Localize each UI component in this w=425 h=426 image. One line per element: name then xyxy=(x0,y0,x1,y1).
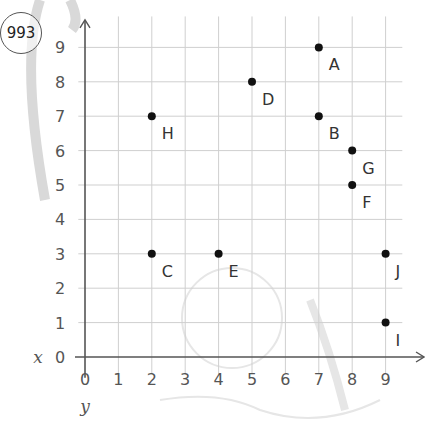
axes xyxy=(75,20,424,378)
point-label: A xyxy=(329,55,340,74)
background-decoration xyxy=(31,0,380,418)
point-marker xyxy=(148,250,156,258)
point-marker xyxy=(248,78,256,86)
y-tick-label: 0 xyxy=(55,348,65,367)
point-label: I xyxy=(396,331,401,350)
point-label: D xyxy=(262,90,274,109)
data-point-j: J xyxy=(382,250,401,281)
decorative-swoosh xyxy=(70,0,76,30)
y-tick-label: 9 xyxy=(55,38,65,57)
point-label: C xyxy=(162,262,173,281)
point-label: B xyxy=(329,124,340,143)
y-axis-label: y xyxy=(79,396,90,416)
exercise-number: 993 xyxy=(7,24,36,42)
point-label: E xyxy=(229,262,239,281)
decorative-sun-icon xyxy=(182,268,282,368)
x-tick-label: 4 xyxy=(214,370,224,389)
point-label: G xyxy=(362,159,374,178)
point-marker xyxy=(148,112,156,120)
x-tick-label: 2 xyxy=(147,370,157,389)
point-label: J xyxy=(395,262,401,281)
grid-lines xyxy=(78,16,402,374)
point-marker xyxy=(348,181,356,189)
x-tick-label: 1 xyxy=(113,370,123,389)
point-label: F xyxy=(362,193,371,212)
point-marker xyxy=(315,43,323,51)
x-tick-label: 0 xyxy=(80,370,90,389)
data-point-i: I xyxy=(382,319,401,350)
coordinate-plane: 01234567890123456789xy ABCDEFGHIJ xyxy=(0,0,425,426)
y-tick-label: 3 xyxy=(55,245,65,264)
point-marker xyxy=(382,319,390,327)
y-tick-label: 6 xyxy=(55,142,65,161)
data-point-f: F xyxy=(348,181,371,212)
point-marker xyxy=(315,112,323,120)
tick-labels: 01234567890123456789xy xyxy=(33,38,390,416)
y-tick-label: 5 xyxy=(55,176,65,195)
point-marker xyxy=(215,250,223,258)
point-marker xyxy=(382,250,390,258)
exercise-number-badge: 993 xyxy=(0,12,42,54)
y-tick-label: 1 xyxy=(55,314,65,333)
x-tick-label: 5 xyxy=(247,370,257,389)
decorative-palm-tree-icon xyxy=(310,300,345,410)
y-tick-label: 4 xyxy=(55,210,65,229)
point-label: H xyxy=(162,124,174,143)
x-tick-label: 3 xyxy=(180,370,190,389)
point-marker xyxy=(348,147,356,155)
x-tick-label: 9 xyxy=(381,370,391,389)
y-tick-label: 8 xyxy=(55,73,65,92)
x-axis-label: x xyxy=(33,347,43,367)
x-tick-label: 7 xyxy=(314,370,324,389)
y-tick-label: 2 xyxy=(55,279,65,298)
y-tick-label: 7 xyxy=(55,107,65,126)
x-tick-label: 6 xyxy=(280,370,290,389)
x-tick-label: 8 xyxy=(347,370,357,389)
